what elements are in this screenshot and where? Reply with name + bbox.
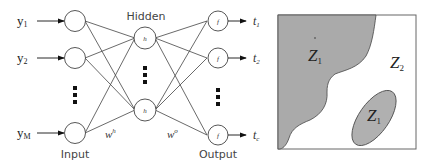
input-hidden-connections bbox=[85, 21, 135, 133]
region-dot bbox=[314, 37, 316, 39]
hidden-layer-label: Hidden bbox=[126, 10, 165, 23]
input-label-2: y2 bbox=[17, 50, 28, 66]
decision-region-panel bbox=[278, 15, 416, 153]
hidden-output-connections bbox=[155, 21, 207, 135]
hidden-node-label: h bbox=[143, 35, 147, 43]
target-label-1: t1 bbox=[253, 14, 260, 29]
output-nodes bbox=[208, 11, 228, 145]
input-node bbox=[65, 123, 86, 144]
hidden-ellipsis bbox=[143, 66, 147, 84]
input-layer-label: Input bbox=[61, 148, 90, 161]
target-label-2: t2 bbox=[253, 51, 260, 66]
hidden-node-label: h bbox=[143, 107, 147, 115]
output-ellipsis bbox=[216, 88, 220, 106]
input-node bbox=[65, 11, 86, 32]
input-arrows bbox=[37, 21, 64, 133]
hidden-weight-label: wh bbox=[105, 127, 116, 140]
diagram-canvas: y1 y2 yM Input h h Hidden wh wo bbox=[0, 0, 434, 168]
output-weight-label: wo bbox=[167, 127, 178, 140]
input-label-1: y1 bbox=[17, 13, 28, 29]
input-label-m: yM bbox=[17, 125, 31, 141]
output-arrows bbox=[228, 21, 246, 135]
input-node bbox=[65, 48, 86, 69]
input-nodes bbox=[65, 11, 86, 144]
target-label-c: tc bbox=[253, 128, 260, 143]
input-ellipsis bbox=[73, 86, 77, 104]
output-layer-label: Output bbox=[199, 148, 238, 161]
